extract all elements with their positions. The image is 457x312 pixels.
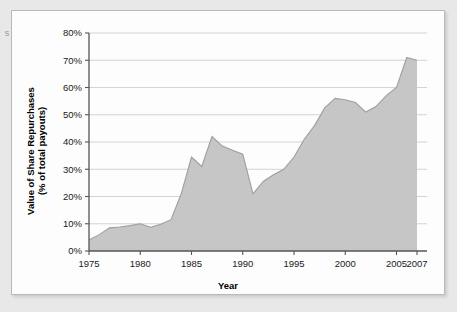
y-axis-title-line2: (% of total payouts): [36, 107, 47, 195]
chart-canvas: 0%10%20%30%40%50%60%70%80% 1975198019851…: [12, 11, 446, 296]
y-tick-label-0: 0%: [68, 245, 82, 256]
x-tick-label-2000: 2000: [335, 258, 356, 269]
y-axis-title-line1: Value of Share Repurchases: [25, 87, 36, 215]
chart-frame: 0%10%20%30%40%50%60%70%80% 1975198019851…: [11, 10, 445, 295]
y-tick-label-30: 30%: [63, 164, 83, 175]
figure-page: s 0%10%20%30%40%50%60%70%80% 19751980198…: [0, 0, 457, 312]
series-area-fill: [89, 58, 417, 251]
x-tick-label-1995: 1995: [283, 258, 304, 269]
y-tick-label-40: 40%: [63, 136, 83, 147]
y-tick-label-20: 20%: [63, 191, 83, 202]
y-tick-label-10: 10%: [63, 218, 83, 229]
x-axis-title: Year: [218, 280, 238, 291]
x-tick-labels: 19751980198519901995200020052007: [78, 258, 427, 269]
y-tick-labels: 0%10%20%30%40%50%60%70%80%: [63, 27, 83, 256]
y-tick-label-80: 80%: [63, 27, 83, 38]
x-tick-label-2005: 2005: [386, 258, 407, 269]
x-tick-label-1975: 1975: [78, 258, 99, 269]
x-tick-label-2007: 2007: [406, 258, 427, 269]
y-tick-label-50: 50%: [63, 109, 83, 120]
data-series-group: [89, 58, 417, 251]
y-tick-label-60: 60%: [63, 82, 83, 93]
area-chart: 0%10%20%30%40%50%60%70%80% 1975198019851…: [12, 11, 446, 296]
y-tick-label-70: 70%: [63, 55, 83, 66]
x-tick-label-1985: 1985: [181, 258, 202, 269]
x-tick-label-1990: 1990: [232, 258, 253, 269]
x-tick-label-1980: 1980: [130, 258, 151, 269]
